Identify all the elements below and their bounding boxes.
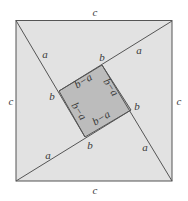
- pythagorean-square-diagram: c c c c a a a a b b b b b−a b−a b−a b−a: [0, 0, 188, 201]
- label-c-left: c: [9, 95, 14, 107]
- label-b-bottom: b: [87, 139, 93, 151]
- label-b-left: b: [49, 90, 55, 102]
- label-a-lower-right: a: [142, 141, 148, 153]
- label-b-top: b: [99, 51, 105, 63]
- label-a-lower-left: a: [45, 149, 51, 161]
- label-c-right: c: [177, 95, 182, 107]
- label-a-upper-right: a: [136, 44, 142, 56]
- label-b-right: b: [134, 100, 140, 112]
- label-a-upper-left: a: [42, 48, 48, 60]
- label-c-bottom: c: [93, 184, 98, 196]
- label-c-top: c: [93, 6, 98, 18]
